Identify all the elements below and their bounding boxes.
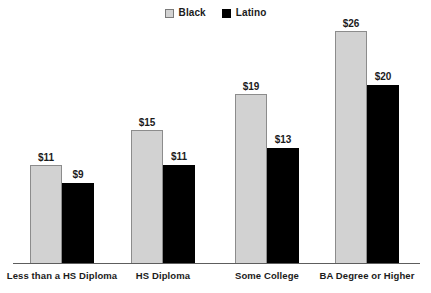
legend-item-black: Black [165, 8, 206, 18]
bar-value-label: $20 [375, 71, 392, 82]
bar-value-label: $11 [171, 151, 187, 162]
bar-black-2: $19 [235, 94, 267, 264]
legend-swatch-black-icon [165, 9, 174, 18]
bar-black-1: $15 [131, 130, 163, 264]
bar-latino-3: $20 [367, 85, 399, 264]
legend-label-black: Black [179, 8, 206, 18]
bar-group: $26$20 [335, 26, 399, 264]
category-label-0: Less than a HS Diploma [7, 270, 117, 281]
bar-value-label: $26 [343, 18, 360, 29]
bar-latino-0: $9 [62, 183, 94, 264]
category-label-3: BA Degree or Higher [320, 270, 415, 281]
bar-group: $19$13 [235, 26, 299, 264]
plot-area: $11$9$15$11$19$13$26$20 [13, 26, 420, 264]
bar-latino-1: $11 [163, 165, 195, 264]
category-label-2: Some College [235, 270, 299, 281]
bar-value-label: $9 [72, 169, 83, 180]
x-axis-baseline [13, 263, 420, 264]
bar-black-3: $26 [335, 31, 367, 264]
bar-group: $15$11 [131, 26, 195, 264]
legend-label-latino: Latino [236, 8, 267, 18]
legend-item-latino: Latino [222, 8, 267, 18]
bar-value-label: $19 [243, 81, 260, 92]
category-label-1: HS Diploma [136, 270, 190, 281]
bar-value-label: $15 [139, 117, 156, 128]
bar-value-label: $13 [275, 134, 292, 145]
legend-swatch-latino-icon [222, 9, 231, 18]
bar-latino-2: $13 [267, 148, 299, 264]
bar-group: $11$9 [30, 26, 94, 264]
bar-value-label: $11 [38, 152, 54, 163]
bar-black-0: $11 [30, 165, 62, 264]
bar-chart: Black Latino $11$9$15$11$19$13$26$20 Les… [0, 0, 431, 293]
chart-legend: Black Latino [0, 8, 431, 18]
